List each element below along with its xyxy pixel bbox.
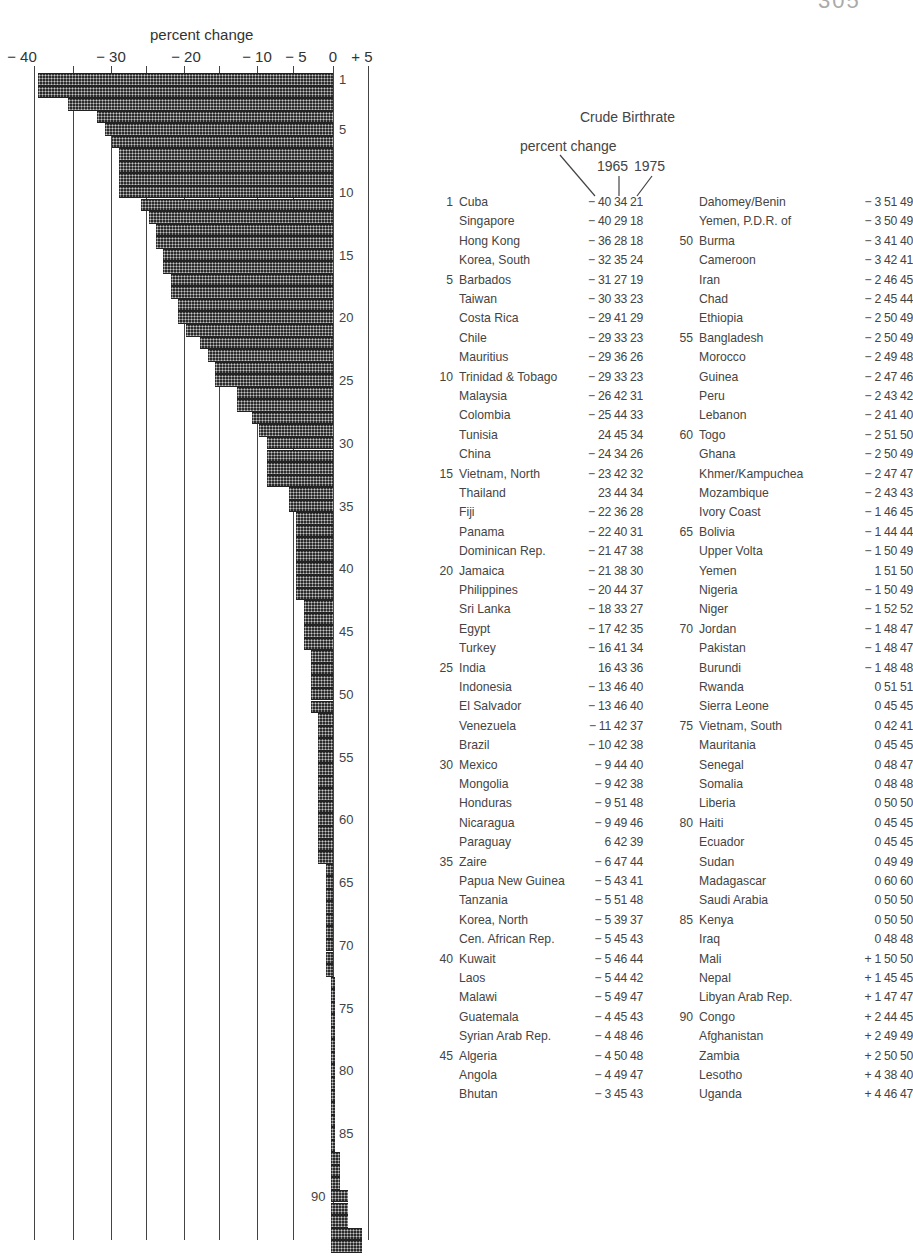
- rank-number: 85: [671, 913, 693, 927]
- country-name: Rwanda: [699, 680, 744, 694]
- country-values: − 5 46 44: [595, 952, 643, 966]
- country-name: Honduras: [459, 796, 512, 810]
- bar: [331, 1165, 340, 1178]
- country-values: − 2 50 49: [865, 447, 913, 461]
- bar: [318, 801, 333, 814]
- table-row: Egypt− 17 42 35: [431, 622, 643, 641]
- country-values: 1 51 50: [874, 564, 913, 578]
- table-row: Iran− 2 46 45: [671, 273, 913, 292]
- country-values: + 4 38 40: [865, 1068, 913, 1082]
- bar: [178, 311, 333, 324]
- bar: [304, 638, 333, 651]
- table-row: Fiji− 22 36 28: [431, 505, 643, 524]
- bar: [326, 889, 333, 902]
- table-row: Venezuela− 11 42 37: [431, 719, 643, 738]
- bar: [331, 1228, 362, 1241]
- country-values: + 1 45 45: [865, 971, 913, 985]
- country-values: − 24 34 26: [588, 447, 643, 461]
- country-values: − 25 44 33: [588, 408, 643, 422]
- bar: [163, 249, 333, 262]
- table-row: Sierra Leone0 45 45: [671, 699, 913, 718]
- country-name: Dahomey/Benin: [699, 195, 786, 209]
- table-row: 20Jamaica− 21 38 30: [431, 564, 643, 583]
- country-values: − 21 38 30: [588, 564, 643, 578]
- country-values: − 23 42 32: [588, 467, 643, 481]
- table-row: 60Togo− 2 51 50: [671, 428, 913, 447]
- rank-number: 65: [671, 525, 693, 539]
- table-row: Mauritania0 45 45: [671, 738, 913, 757]
- row-tick-label: 15: [339, 248, 353, 263]
- bar: [252, 412, 333, 425]
- country-values: − 26 42 31: [588, 389, 643, 403]
- table-row: Saudi Arabia0 50 50: [671, 893, 913, 912]
- country-values: − 16 41 34: [588, 641, 643, 655]
- table-row: 90Congo+ 2 44 45: [671, 1010, 913, 1029]
- country-values: − 29 33 23: [588, 331, 643, 345]
- bar: [331, 1002, 335, 1015]
- country-name: Chile: [459, 331, 487, 345]
- country-values: − 4 45 43: [595, 1010, 643, 1024]
- country-name: Algeria: [459, 1049, 497, 1063]
- bar: [331, 1152, 340, 1165]
- country-values: − 1 48 47: [865, 641, 913, 655]
- table-row: Hong Kong− 36 28 18: [431, 234, 643, 253]
- country-values: 24 45 34: [598, 428, 643, 442]
- country-values: − 40 29 18: [588, 214, 643, 228]
- table-row: Rwanda0 51 51: [671, 680, 913, 699]
- table-row: Tanzania− 5 51 48: [431, 893, 643, 912]
- country-values: + 4 46 47: [865, 1087, 913, 1101]
- table-row: Sri Lanka− 18 33 27: [431, 602, 643, 621]
- table-row: 85Kenya0 50 50: [671, 913, 913, 932]
- country-name: Angola: [459, 1068, 497, 1082]
- country-name: Malaysia: [459, 389, 507, 403]
- table-row: Peru− 2 43 42: [671, 389, 913, 408]
- bar: [326, 876, 333, 889]
- bar: [259, 424, 333, 437]
- country-values: − 5 44 42: [595, 971, 643, 985]
- table-row: Laos− 5 44 42: [431, 971, 643, 990]
- country-values: − 11 42 37: [589, 719, 643, 733]
- table-row: 75Vietnam, South0 42 41: [671, 719, 913, 738]
- rank-number: 90: [671, 1010, 693, 1024]
- table-row: Cameroon− 3 42 41: [671, 253, 913, 272]
- country-name: Saudi Arabia: [699, 893, 768, 907]
- country-values: − 21 47 38: [588, 544, 643, 558]
- country-values: 0 50 50: [874, 913, 913, 927]
- rank-number: 10: [431, 370, 453, 384]
- country-values: − 1 48 48: [865, 661, 913, 675]
- row-tick-label: 45: [339, 624, 353, 639]
- country-name: Pakistan: [699, 641, 746, 655]
- country-name: China: [459, 447, 491, 461]
- country-name: Panama: [459, 525, 504, 539]
- table-row: El Salvador− 13 46 40: [431, 699, 643, 718]
- bar: [331, 1203, 348, 1216]
- table-row: Guinea− 2 47 46: [671, 370, 913, 389]
- country-values: − 3 51 49: [865, 195, 913, 209]
- country-values: − 3 41 40: [865, 234, 913, 248]
- table-row: Guatemala− 4 45 43: [431, 1010, 643, 1029]
- country-name: Mozambique: [699, 486, 769, 500]
- bar: [318, 763, 333, 776]
- country-name: Ethiopia: [699, 311, 743, 325]
- bar: [331, 1052, 335, 1065]
- country-name: Nigeria: [699, 583, 738, 597]
- rank-number: 30: [431, 758, 453, 772]
- country-name: Turkey: [459, 641, 496, 655]
- bar: [326, 901, 333, 914]
- table-row: Chile− 29 33 23: [431, 331, 643, 350]
- table-row: 1Cuba− 40 34 21: [431, 195, 643, 214]
- country-values: − 4 49 47: [595, 1068, 643, 1082]
- rank-number: 40: [431, 952, 453, 966]
- bar: [171, 286, 333, 299]
- bar: [331, 1014, 335, 1027]
- table-row: Ivory Coast− 1 46 45: [671, 505, 913, 524]
- country-name: Haiti: [699, 816, 723, 830]
- country-values: 6 42 39: [604, 835, 643, 849]
- country-values: − 5 49 47: [595, 990, 643, 1004]
- country-name: Bangladesh: [699, 331, 763, 345]
- table-row: Nigeria− 1 50 49: [671, 583, 913, 602]
- country-name: Tanzania: [459, 893, 508, 907]
- table-row: 5Barbados− 31 27 19: [431, 273, 643, 292]
- row-tick-label: 60: [339, 812, 353, 827]
- table-row: Colombia− 25 44 33: [431, 408, 643, 427]
